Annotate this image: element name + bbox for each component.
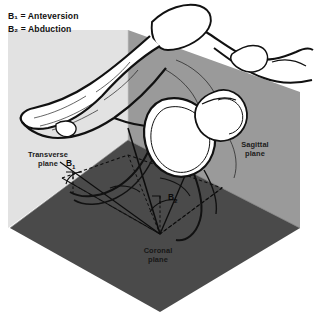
transverse-plane-label-line1: Transverse xyxy=(8,150,88,159)
coronal-plane-label-line1: Coronal xyxy=(118,246,198,255)
legend: B₁ = Anteversion B₂ = Abduction xyxy=(8,10,79,36)
legend-b1-text: B₁ = Anteversion xyxy=(8,11,79,21)
sacrum-detail-line xyxy=(272,60,306,66)
angle-label-b2-subscript: 2 xyxy=(174,197,177,204)
sagittal-plane-label-line1: Sagittal xyxy=(222,140,288,149)
angle-label-b1-subscript: 1 xyxy=(72,163,75,170)
angle-label-b2: B2 xyxy=(168,192,178,204)
sagittal-plane-label: Sagittal plane xyxy=(222,140,288,158)
figure-canvas: B₁ = Anteversion B₂ = Abduction Transver… xyxy=(0,0,314,323)
anterior-inferior-iliac-spine xyxy=(56,121,76,137)
coronal-plane-label: Coronal plane xyxy=(118,246,198,264)
transverse-plane-label: Transverse plane xyxy=(8,150,88,168)
transverse-plane-label-line2: plane xyxy=(8,159,88,168)
coronal-plane-label-line2: plane xyxy=(118,255,198,264)
iliac-crest-superior xyxy=(152,5,211,50)
sacral-ala xyxy=(231,45,268,72)
legend-b2-text: B₂ = Abduction xyxy=(8,24,71,34)
sagittal-plane-label-line2: plane xyxy=(222,149,288,158)
angle-label-b1: B1 xyxy=(66,158,76,170)
legend-item-b1: B₁ = Anteversion xyxy=(8,10,79,23)
legend-item-b2: B₂ = Abduction xyxy=(8,23,79,36)
